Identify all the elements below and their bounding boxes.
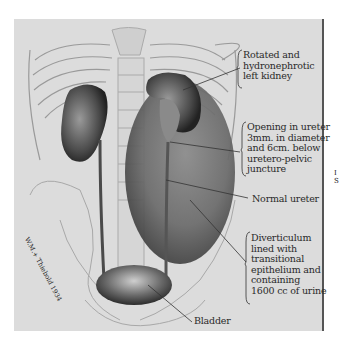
margin-fragment: IS: [334, 169, 339, 185]
right-ureter: [100, 140, 104, 280]
label-left-kidney: Rotated and hydronephrotic left kidney: [243, 50, 314, 82]
bladder: [96, 265, 172, 305]
label-bladder: Bladder: [194, 316, 231, 327]
label-normal-ureter: Normal ureter: [252, 194, 319, 205]
sternum: [112, 28, 146, 56]
label-diverticulum: Diverticulum lined with transitional epi…: [251, 233, 326, 296]
label-ureter-opening: Opening in ureter 3mm. in diameter and 6…: [247, 122, 330, 175]
label-braces: [237, 50, 250, 304]
